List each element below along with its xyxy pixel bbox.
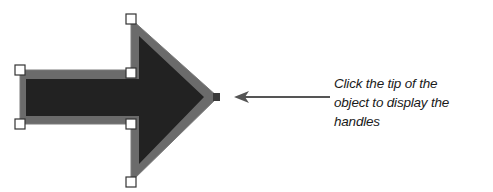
handle-shaft-top-left[interactable] [15,65,25,75]
handle-shaft-bottom-right[interactable] [126,119,136,129]
caption-line-3: handles [334,112,493,131]
handle-shaft-bottom-left[interactable] [15,119,25,129]
callout-pointer-arrow [234,91,330,103]
handle-shaft-top-right[interactable] [126,68,136,78]
arrow-shape[interactable] [20,19,218,182]
handle-top[interactable] [126,14,136,24]
handle-bottom[interactable] [126,177,136,187]
arrow-tip-handle[interactable] [213,93,220,101]
callout-caption: Click the tip of the object to display t… [334,74,493,131]
caption-line-1: Click the tip of the [334,74,493,93]
arrow-fill [26,36,204,164]
caption-line-2: object to display the [334,93,493,112]
